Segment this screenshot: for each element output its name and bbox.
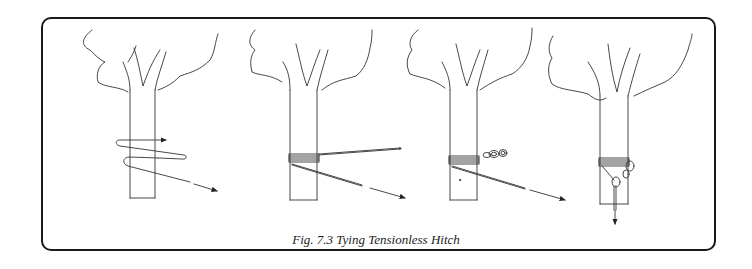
panel-3-rope bbox=[449, 150, 565, 201]
panel-4-rope bbox=[599, 158, 634, 224]
panel-4-tree bbox=[549, 34, 692, 204]
panel-2-rope bbox=[289, 148, 405, 198]
tensionless-hitch-illustration bbox=[0, 0, 752, 269]
panel-1-tree bbox=[83, 30, 218, 198]
panel-3-tree bbox=[407, 28, 532, 200]
panel-1-rope bbox=[116, 140, 217, 191]
figure-caption: Fig. 7.3 Tying Tensionless Hitch bbox=[0, 232, 752, 248]
panel-2-tree bbox=[250, 30, 372, 200]
carabiner-chain-icon bbox=[483, 150, 507, 158]
